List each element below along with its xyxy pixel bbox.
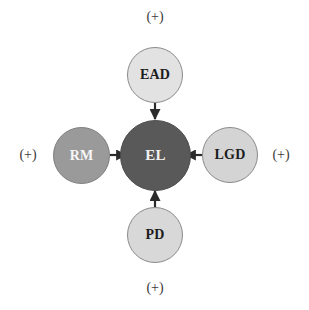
node-lgd[interactable]: LGD: [202, 127, 258, 183]
node-ead[interactable]: EAD: [127, 47, 183, 103]
node-pd-label: PD: [145, 228, 164, 242]
sign-top: (+): [135, 10, 175, 24]
sign-bottom: (+): [135, 281, 175, 295]
node-ead-label: EAD: [140, 68, 170, 82]
node-pd[interactable]: PD: [127, 207, 183, 263]
node-rm[interactable]: RM: [53, 127, 110, 184]
sign-left: (+): [8, 148, 48, 162]
node-lgd-label: LGD: [215, 148, 246, 162]
node-el[interactable]: EL: [120, 120, 191, 191]
relationship-diagram: EAD RM EL LGD PD (+) (+) (+) (+): [0, 0, 309, 310]
node-el-label: EL: [145, 148, 165, 163]
node-rm-label: RM: [70, 149, 94, 163]
sign-right: (+): [261, 148, 301, 162]
